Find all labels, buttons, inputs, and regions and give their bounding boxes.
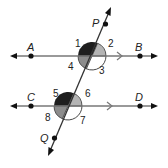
angle-label-5: 5 [53,88,59,99]
label-p: P [92,17,100,29]
point-q-dot [52,135,57,140]
label-q: Q [40,132,49,144]
angle-label-4: 4 [68,61,74,72]
angle-label-2: 2 [108,38,114,49]
transversal-pq [48,7,111,156]
arrowhead-left-icon [10,53,17,59]
point-p-dot [103,21,108,26]
label-a: A [26,41,34,53]
arrowhead-left-icon [10,103,17,109]
angle-label-8: 8 [45,112,51,123]
label-b: B [135,41,142,53]
arrowhead-right-icon [151,53,158,59]
geometry-diagram: A B C D P Q 1 2 3 4 5 6 7 8 [0,0,168,168]
point-b-dot [137,53,142,58]
angle-label-6: 6 [85,88,91,99]
point-c-dot [28,103,33,108]
line-cd [10,102,158,110]
angle-label-7: 7 [80,115,86,126]
point-d-dot [137,103,142,108]
label-c: C [27,91,35,103]
label-d: D [135,91,143,103]
arrowhead-right-icon [151,103,158,109]
angle-label-1: 1 [75,38,81,49]
angle-label-3: 3 [99,65,105,76]
point-a-dot [28,53,33,58]
